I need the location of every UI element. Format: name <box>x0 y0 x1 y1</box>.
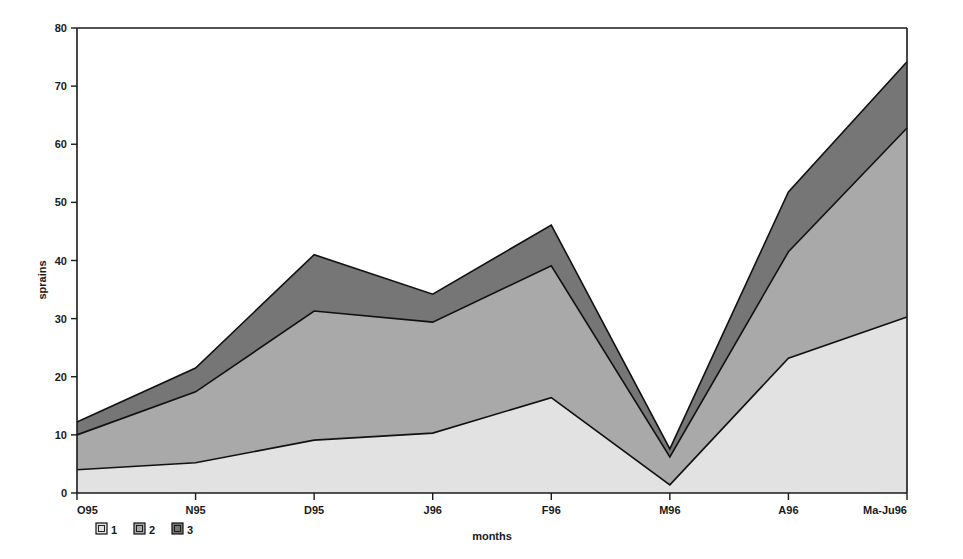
stacked-area-chart: 01020304050607080 O95N95D95J96F96M96A96M… <box>0 0 963 559</box>
y-tick-label-20: 20 <box>55 371 67 383</box>
y-axis: 01020304050607080 <box>55 22 77 499</box>
x-axis: O95N95D95J96F96M96A96Ma-Ju96 <box>77 493 907 516</box>
chart-container: 01020304050607080 O95N95D95J96F96M96A96M… <box>0 0 963 559</box>
x-tick-label-D95: D95 <box>304 504 324 516</box>
x-axis-title: months <box>472 530 512 542</box>
x-tick-label-M96: M96 <box>659 504 680 516</box>
y-tick-label-40: 40 <box>55 255 67 267</box>
y-tick-label-50: 50 <box>55 196 67 208</box>
y-tick-label-60: 60 <box>55 138 67 150</box>
y-axis-title: sprains <box>36 260 48 299</box>
x-tick-label-J96: J96 <box>424 504 442 516</box>
x-tick-label-Ma-Ju96: Ma-Ju96 <box>863 504 907 516</box>
legend-swatch-inner-1 <box>99 526 105 532</box>
legend-swatch-inner-2 <box>137 526 143 532</box>
legend-label-3: 3 <box>187 524 193 536</box>
chart-legend: 123 <box>96 523 193 536</box>
y-tick-label-80: 80 <box>55 22 67 34</box>
y-tick-label-0: 0 <box>61 487 67 499</box>
y-tick-label-70: 70 <box>55 80 67 92</box>
x-tick-label-F96: F96 <box>542 504 561 516</box>
x-tick-label-O95: O95 <box>77 504 98 516</box>
x-tick-label-N95: N95 <box>185 504 205 516</box>
y-tick-label-30: 30 <box>55 313 67 325</box>
legend-label-2: 2 <box>149 524 155 536</box>
y-tick-label-10: 10 <box>55 429 67 441</box>
x-tick-label-A96: A96 <box>778 504 798 516</box>
legend-label-1: 1 <box>111 524 117 536</box>
legend-swatch-inner-3 <box>175 526 181 532</box>
